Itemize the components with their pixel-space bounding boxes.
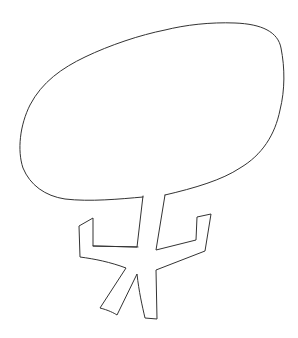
tree-drawing [0,0,298,338]
tree-branch-left [93,246,138,247]
drawing-canvas [0,0,298,338]
tree-trunk [79,195,211,319]
tree-canopy [20,23,284,200]
